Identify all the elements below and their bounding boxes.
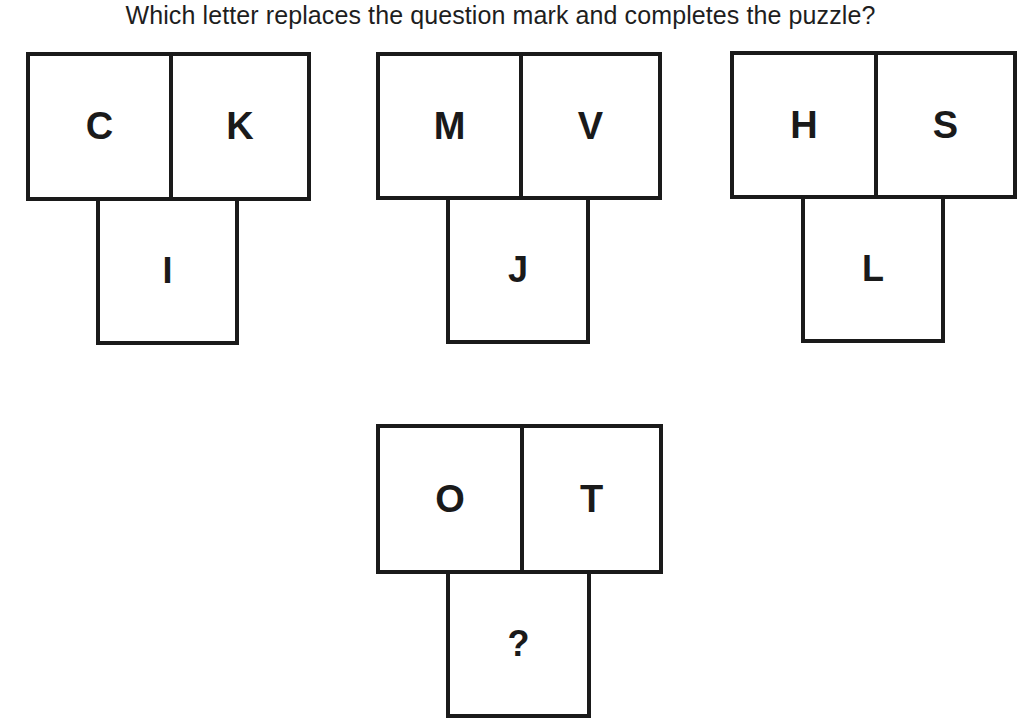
puzzle-1-top-left-cell: C <box>26 52 173 201</box>
puzzle-3-top-right-cell: S <box>874 51 1017 199</box>
puzzle-1-top-right-cell: K <box>169 52 311 201</box>
puzzle-4-bottom-cell: ? <box>446 570 591 718</box>
puzzle-2-bottom-cell: J <box>446 196 590 344</box>
question-text: Which letter replaces the question mark … <box>0 0 1001 30</box>
puzzle-4-top-left-cell: O <box>376 424 524 574</box>
puzzle-2-top-left-cell: M <box>376 52 523 200</box>
puzzle-4-top-right-cell: T <box>520 424 663 574</box>
puzzle-2-top-right-cell: V <box>519 52 662 200</box>
puzzle-3-bottom-cell: L <box>801 195 945 343</box>
puzzle-1-bottom-cell: I <box>96 197 239 345</box>
puzzle-3-top-left-cell: H <box>730 51 878 199</box>
